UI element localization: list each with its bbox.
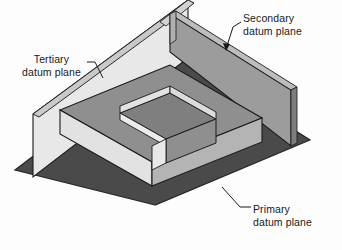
leader-secondary: [227, 22, 241, 46]
label-secondary-line2: datum plane: [243, 25, 302, 38]
label-primary-line2: datum plane: [253, 216, 312, 229]
label-primary-datum-plane: Primary datum plane: [253, 203, 312, 228]
label-tertiary-line2: datum plane: [22, 66, 81, 79]
label-tertiary-line1: Tertiary: [34, 53, 69, 65]
label-secondary-line1: Secondary: [243, 12, 294, 24]
datum-plane-diagram: Secondary datum plane Tertiary datum pla…: [0, 0, 342, 250]
leader-primary: [222, 187, 251, 207]
secondary-datum-plane-right-edge: [291, 87, 297, 146]
label-secondary-datum-plane: Secondary datum plane: [243, 12, 302, 37]
secondary-datum-plane-upper-fin: [170, 11, 176, 44]
label-primary-line1: Primary: [253, 203, 290, 215]
label-tertiary-datum-plane: Tertiary datum plane: [22, 53, 81, 78]
